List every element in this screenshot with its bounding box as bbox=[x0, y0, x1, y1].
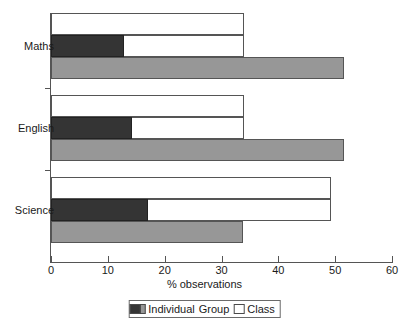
legend-item-individual: Individual bbox=[134, 303, 194, 315]
bar-class-english bbox=[51, 95, 244, 117]
bar-individual-english bbox=[51, 139, 344, 161]
legend-swatch-class-icon bbox=[233, 304, 244, 314]
bar-group-english bbox=[51, 117, 132, 139]
x-axis-tick-60 bbox=[392, 256, 393, 263]
legend-item-group: Group bbox=[199, 303, 230, 315]
x-axis-title: % observations bbox=[0, 278, 409, 290]
x-axis-tick-label-50: 50 bbox=[315, 264, 355, 277]
x-axis-tick-label-60: 60 bbox=[372, 264, 409, 277]
bar-individual-science bbox=[51, 221, 243, 243]
x-axis-tick-10 bbox=[108, 256, 109, 263]
bar-chart: MathsEnglishScience 0102030405060 % obse… bbox=[0, 0, 409, 328]
y-axis-tick-0 bbox=[45, 88, 51, 89]
y-axis-label-english: English bbox=[18, 122, 54, 134]
x-axis-tick-label-30: 30 bbox=[202, 264, 242, 277]
legend-label-group: Group bbox=[199, 303, 230, 315]
bar-group-maths bbox=[51, 35, 124, 57]
x-axis-tick-40 bbox=[278, 256, 279, 263]
x-axis-tick-50 bbox=[335, 256, 336, 263]
x-axis-tick-label-20: 20 bbox=[145, 264, 185, 277]
chart-legend: IndividualGroupClass bbox=[128, 300, 281, 318]
bar-class-science bbox=[51, 177, 331, 199]
x-axis-tick-0 bbox=[51, 256, 52, 263]
plot-area bbox=[51, 13, 392, 262]
x-axis-tick-20 bbox=[165, 256, 166, 263]
legend-label-class: Class bbox=[247, 303, 275, 315]
y-axis-label-maths: Maths bbox=[24, 40, 54, 52]
x-axis-tick-label-0: 0 bbox=[31, 264, 71, 277]
bar-class-maths bbox=[51, 13, 244, 35]
x-axis-tick-30 bbox=[222, 256, 223, 263]
legend-label-individual: Individual bbox=[148, 303, 194, 315]
x-axis-tick-label-40: 40 bbox=[258, 264, 298, 277]
legend-swatch-group-icon bbox=[129, 304, 140, 314]
y-axis-label-science: Science bbox=[15, 204, 54, 216]
legend-item-class: Class bbox=[233, 303, 275, 315]
y-axis-tick-1 bbox=[45, 170, 51, 171]
bar-group-science bbox=[51, 199, 148, 221]
x-axis-tick-label-10: 10 bbox=[88, 264, 128, 277]
bar-individual-maths bbox=[51, 57, 344, 79]
